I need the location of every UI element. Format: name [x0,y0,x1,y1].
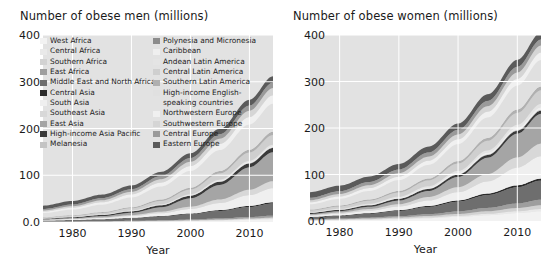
stacked-area-men [43,35,273,222]
stacked-area-women [310,35,541,221]
y-axis-men: 4003002001000.0 [2,0,40,258]
y-tick-label: 100 [19,169,40,182]
x-axis-title: Year [146,244,169,257]
panel-obese-men: Number of obese men (millions) 400300200… [0,0,281,258]
figure-obesity-stacked-areas: Number of obese men (millions) 400300200… [0,0,555,258]
x-tick-label: 2000 [444,226,472,239]
y-tick-label: 300 [19,75,40,88]
x-tick-label: 1990 [117,227,145,240]
y-tick-label: 200 [304,122,325,135]
y-tick-label: 100 [304,168,325,181]
x-axis-title: Year [414,243,437,256]
x-tick-label: 2000 [176,227,204,240]
y-tick-label: 0.0 [23,216,41,229]
x-tick-label: 2010 [503,226,531,239]
x-tick-label: 1980 [58,227,86,240]
x-tick-label: 1990 [385,226,413,239]
y-tick-label: 400 [19,29,40,42]
y-tick-label: 0.0 [308,215,326,228]
x-tick-label: 1980 [326,226,354,239]
panel-title-men: Number of obese men (millions) [20,9,208,23]
y-tick-label: 200 [19,122,40,135]
plot-area-women [310,35,541,221]
y-axis-women: 4003002001000.0 [283,0,325,258]
y-tick-label: 400 [304,29,325,42]
plot-area-men [43,35,273,222]
x-tick-label: 2010 [235,227,263,240]
y-tick-label: 300 [304,75,325,88]
